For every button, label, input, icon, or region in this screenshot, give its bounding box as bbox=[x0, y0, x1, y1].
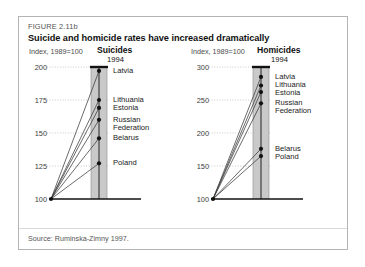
plot-area-suicides: 100125150175200LatviaLithuaniaEstoniaRus… bbox=[23, 61, 185, 219]
y-tick-label: 150 bbox=[187, 162, 209, 171]
panel-title-homicides: Homicides bbox=[257, 45, 300, 55]
chart-panel-suicides: Index, 1989=100 Suicides 1994 1001251501… bbox=[23, 47, 185, 227]
y-tick-label: 100 bbox=[187, 195, 209, 204]
data-point bbox=[97, 118, 101, 122]
series-label: Federation bbox=[113, 124, 149, 132]
data-point bbox=[259, 75, 263, 79]
figure-title: Suicide and homicide rates have increase… bbox=[28, 33, 269, 43]
series-label: Poland bbox=[275, 153, 299, 161]
panel-title-suicides: Suicides bbox=[97, 45, 132, 55]
source-divider bbox=[19, 228, 347, 229]
series-label: Estonia bbox=[113, 104, 138, 112]
y-tick-label: 200 bbox=[187, 129, 209, 138]
y-tick-label: 250 bbox=[187, 96, 209, 105]
y-tick-label: 200 bbox=[25, 63, 47, 72]
y-tick-label: 125 bbox=[25, 162, 47, 171]
chart-panel-homicides: Index, 1989=100 Homicides 1994 100150200… bbox=[185, 47, 347, 227]
origin-data-point bbox=[49, 197, 53, 201]
series-label: Belarus bbox=[113, 134, 139, 142]
series-label: Federation bbox=[275, 107, 311, 115]
origin-data-point bbox=[211, 197, 215, 201]
data-point bbox=[259, 154, 263, 158]
y-tick-label: 175 bbox=[25, 96, 47, 105]
figure-number: FIGURE 2.11b bbox=[28, 22, 78, 31]
series-label: Estonia bbox=[275, 89, 300, 97]
y-axis-index-note-suicides: Index, 1989=100 bbox=[29, 47, 83, 56]
data-point bbox=[259, 83, 263, 87]
data-point bbox=[97, 106, 101, 110]
y-axis-index-note-homicides: Index, 1989=100 bbox=[191, 47, 245, 56]
chart-svg bbox=[185, 61, 347, 219]
data-point bbox=[97, 136, 101, 140]
figure-source: Source: Ruminska-Zimny 1997. bbox=[28, 234, 129, 243]
y-tick-label: 100 bbox=[25, 195, 47, 204]
data-point bbox=[97, 161, 101, 165]
figure-container: FIGURE 2.11b Suicide and homicide rates … bbox=[18, 16, 348, 250]
data-point bbox=[259, 90, 263, 94]
y-tick-label: 300 bbox=[187, 63, 209, 72]
data-point bbox=[97, 98, 101, 102]
plot-area-homicides: 100150200250300LatviaLithuaniaEstoniaRus… bbox=[185, 61, 347, 219]
series-label: Poland bbox=[113, 159, 137, 167]
chart-svg bbox=[23, 61, 185, 219]
series-label: Latvia bbox=[113, 67, 133, 75]
data-point bbox=[97, 69, 101, 73]
data-point bbox=[259, 101, 263, 105]
y-tick-label: 150 bbox=[25, 129, 47, 138]
data-point bbox=[259, 147, 263, 151]
